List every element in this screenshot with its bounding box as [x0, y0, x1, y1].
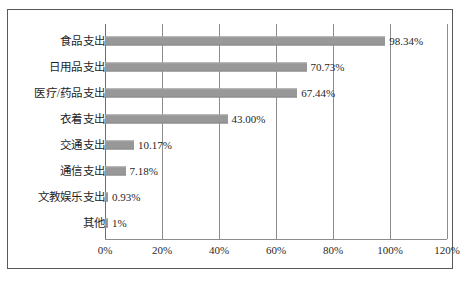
bar[interactable]	[105, 193, 108, 202]
bar-value-label: 7.18%	[129, 165, 157, 177]
bar-row: 文教娱乐支出 0.93%	[8, 184, 454, 210]
bar-value-label: 67.44%	[301, 87, 335, 99]
x-tick-label: 60%	[248, 244, 304, 257]
bar[interactable]	[105, 219, 108, 228]
category-label: 其他	[83, 217, 105, 230]
category-label: 通信支出	[60, 165, 105, 178]
bar[interactable]	[105, 167, 126, 176]
x-tick-label: 40%	[191, 244, 247, 257]
bar-value-label: 0.93%	[112, 191, 140, 203]
bar-row: 交通支出 10.17%	[8, 132, 454, 158]
category-label: 交通支出	[60, 139, 105, 152]
x-tick-label: 120%	[419, 244, 465, 257]
x-tick-label: 80%	[305, 244, 361, 257]
bar-row: 医疗/药品支出 67.44%	[8, 80, 454, 106]
bar[interactable]	[105, 115, 228, 124]
bar-value-label: 98.34%	[389, 35, 423, 47]
bar-value-label: 43.00%	[232, 113, 266, 125]
chart-frame: 食品支出 98.34% 日用品支出 70.73% 医疗/药品支出 67.44% …	[7, 9, 453, 269]
bar[interactable]	[105, 37, 385, 46]
category-label: 医疗/药品支出	[34, 87, 105, 100]
bar[interactable]	[105, 141, 134, 150]
bar-row: 衣着支出 43.00%	[8, 106, 454, 132]
bar-row: 其他 1%	[8, 210, 454, 236]
bar-row: 通信支出 7.18%	[8, 158, 454, 184]
category-label: 日用品支出	[49, 61, 105, 74]
plot-area: 食品支出 98.34% 日用品支出 70.73% 医疗/药品支出 67.44% …	[8, 10, 454, 270]
category-label: 文教娱乐支出	[38, 191, 105, 204]
x-axis-line	[105, 239, 447, 240]
bar-row: 食品支出 98.34%	[8, 28, 454, 54]
bar-value-label: 70.73%	[311, 61, 345, 73]
bar-value-label: 10.17%	[138, 139, 172, 151]
x-tick-label: 20%	[134, 244, 190, 257]
x-tick-label: 100%	[362, 244, 418, 257]
bar[interactable]	[105, 89, 297, 98]
bar[interactable]	[105, 63, 307, 72]
bar-value-label: 1%	[112, 217, 127, 229]
category-label: 衣着支出	[60, 113, 105, 126]
x-tick-label: 0%	[77, 244, 133, 257]
bar-row: 日用品支出 70.73%	[8, 54, 454, 80]
category-label: 食品支出	[60, 35, 105, 48]
